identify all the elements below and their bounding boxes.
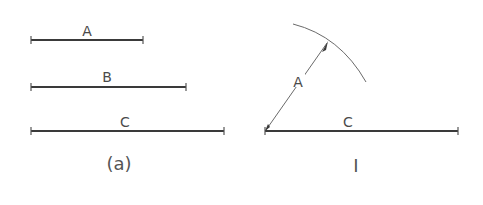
arrowhead-icon (322, 41, 328, 52)
segment-a: A (31, 23, 143, 44)
base-segment-c: C (265, 114, 458, 135)
figure-a-caption: (a) (106, 153, 131, 174)
segment-b: B (31, 69, 186, 91)
figure-i-caption: I (353, 155, 358, 176)
radius-label: A (293, 74, 303, 90)
base-segment-label: C (343, 114, 353, 130)
figure-i: C A I (265, 24, 458, 176)
segment-c-label: C (120, 114, 130, 130)
triangle-construction-diagram: A B C (a) C A I (0, 0, 483, 205)
radius-segment-a: A (265, 41, 328, 131)
segment-c: C (31, 114, 224, 135)
segment-b-label: B (102, 69, 112, 85)
figure-a: A B C (a) (31, 23, 224, 174)
segment-a-label: A (82, 23, 92, 39)
